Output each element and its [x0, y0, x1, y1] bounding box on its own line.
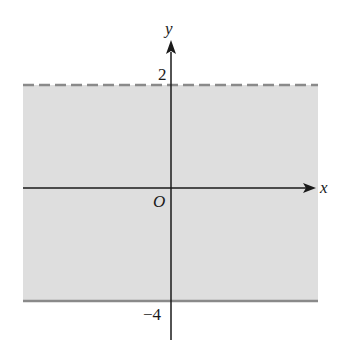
y-axis-label: y	[163, 19, 173, 38]
y-tick-label-neg4: −4	[143, 305, 162, 324]
y-tick-label-2: 2	[158, 65, 167, 84]
y-axis-arrow-icon	[166, 40, 176, 54]
inequality-graph: y x O 2 −4	[0, 0, 342, 357]
x-axis-label: x	[319, 178, 328, 197]
origin-label: O	[153, 192, 165, 211]
